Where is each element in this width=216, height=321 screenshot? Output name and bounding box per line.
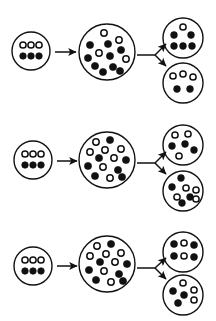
filled-allele-dot xyxy=(171,43,178,50)
filled-allele-dot xyxy=(178,175,185,182)
filled-allele-dot xyxy=(117,46,124,53)
filled-allele-dot xyxy=(38,268,45,275)
filled-allele-dot xyxy=(22,162,29,169)
filled-allele-dot xyxy=(123,260,130,267)
filled-allele-dot xyxy=(30,268,37,275)
split-arrows-row-1 xyxy=(137,44,166,66)
filled-allele-dot xyxy=(114,166,121,173)
open-allele-dot xyxy=(183,185,189,191)
founder-population-row-3-boundary xyxy=(14,247,52,285)
daughter-population-row-2-bottom xyxy=(163,171,203,211)
open-allele-dot xyxy=(180,24,186,30)
population-drift-diagram xyxy=(0,0,216,321)
filled-allele-dot xyxy=(106,52,113,59)
filled-allele-dot xyxy=(109,63,116,70)
daughter-population-row-1-bottom-boundary xyxy=(163,63,203,103)
filled-allele-dot xyxy=(118,173,125,180)
daughter-population-row-3-top xyxy=(163,232,203,272)
open-allele-dot xyxy=(100,164,106,170)
open-allele-dot xyxy=(191,297,197,303)
open-allele-dot xyxy=(101,30,107,36)
filled-allele-dot xyxy=(20,53,27,60)
open-allele-dot xyxy=(96,50,102,56)
open-allele-dot xyxy=(174,194,180,200)
filled-allele-dot xyxy=(180,43,187,50)
open-allele-dot xyxy=(103,251,109,257)
filled-allele-dot xyxy=(86,41,93,48)
open-allele-dot xyxy=(193,187,199,193)
filled-allele-dot xyxy=(119,277,126,284)
open-allele-dot xyxy=(172,132,178,138)
founder-population-row-2-boundary xyxy=(14,141,52,179)
filled-allele-dot xyxy=(91,172,98,179)
open-allele-dot xyxy=(22,151,28,157)
filled-allele-dot xyxy=(116,67,123,74)
open-allele-dot xyxy=(102,147,108,153)
filled-allele-dot xyxy=(85,266,92,273)
filled-allele-dot xyxy=(171,241,178,248)
filled-allele-dot xyxy=(171,253,178,260)
diagram-canvas xyxy=(0,0,216,321)
open-allele-dot xyxy=(22,257,28,263)
filled-allele-dot xyxy=(191,242,198,249)
open-allele-dot xyxy=(118,250,124,256)
filled-allele-dot xyxy=(96,258,103,265)
open-allele-dot xyxy=(170,73,176,79)
filled-allele-dot xyxy=(91,62,98,69)
open-allele-dot xyxy=(193,196,199,202)
filled-allele-dot xyxy=(189,43,196,50)
split-arrows-row-2-branch-up xyxy=(155,152,166,163)
open-allele-dot xyxy=(101,268,107,274)
filled-allele-dot xyxy=(95,154,102,161)
split-arrows-row-1-branch-up xyxy=(155,44,166,55)
open-allele-dot xyxy=(87,253,93,259)
open-allele-dot xyxy=(116,37,122,43)
split-arrows-row-1-branch-down xyxy=(155,55,166,66)
open-allele-dot xyxy=(112,259,118,265)
filled-allele-dot xyxy=(84,162,91,169)
grown-population-row-2 xyxy=(79,132,135,188)
filled-allele-dot xyxy=(191,147,198,154)
filled-allele-dot xyxy=(107,240,114,247)
open-allele-dot xyxy=(87,149,93,155)
filled-allele-dot xyxy=(38,162,45,169)
open-allele-dot xyxy=(30,257,36,263)
filled-allele-dot xyxy=(170,288,177,295)
filled-allele-dot xyxy=(182,141,189,148)
filled-allele-dot xyxy=(175,300,182,307)
filled-allele-dot xyxy=(171,32,178,39)
open-allele-dot xyxy=(111,155,117,161)
filled-allele-dot xyxy=(179,200,186,207)
split-arrows-row-3-branch-down xyxy=(155,268,166,279)
grown-population-row-3 xyxy=(79,236,135,292)
open-allele-dot xyxy=(30,151,36,157)
grown-population-row-1 xyxy=(79,24,135,80)
daughter-population-row-3-top-boundary xyxy=(163,232,203,272)
founder-population-row-1 xyxy=(12,32,50,70)
open-allele-dot xyxy=(36,42,42,48)
open-allele-dot xyxy=(118,146,124,152)
split-arrows-row-2 xyxy=(137,152,166,174)
daughter-population-row-1-bottom xyxy=(163,63,203,103)
open-allele-dot xyxy=(107,175,113,181)
filled-allele-dot xyxy=(122,156,129,163)
filled-allele-dot xyxy=(169,143,176,150)
split-arrows-row-3 xyxy=(137,258,166,279)
filled-allele-dot xyxy=(191,254,198,261)
daughter-population-row-3-bottom xyxy=(163,275,203,315)
filled-allele-dot xyxy=(22,268,29,275)
open-allele-dot xyxy=(181,240,187,246)
filled-allele-dot xyxy=(99,68,106,75)
filled-allele-dot xyxy=(115,270,122,277)
filled-allele-dot xyxy=(169,184,176,191)
founder-population-row-1-boundary xyxy=(12,32,50,70)
open-allele-dot xyxy=(93,139,99,145)
open-allele-dot xyxy=(20,42,26,48)
open-allele-dot xyxy=(181,253,187,259)
filled-allele-dot xyxy=(30,162,37,169)
open-allele-dot xyxy=(28,42,34,48)
filled-allele-dot xyxy=(36,53,43,60)
open-allele-dot xyxy=(180,71,186,77)
open-allele-dot xyxy=(38,151,44,157)
filled-allele-dot xyxy=(187,86,194,93)
